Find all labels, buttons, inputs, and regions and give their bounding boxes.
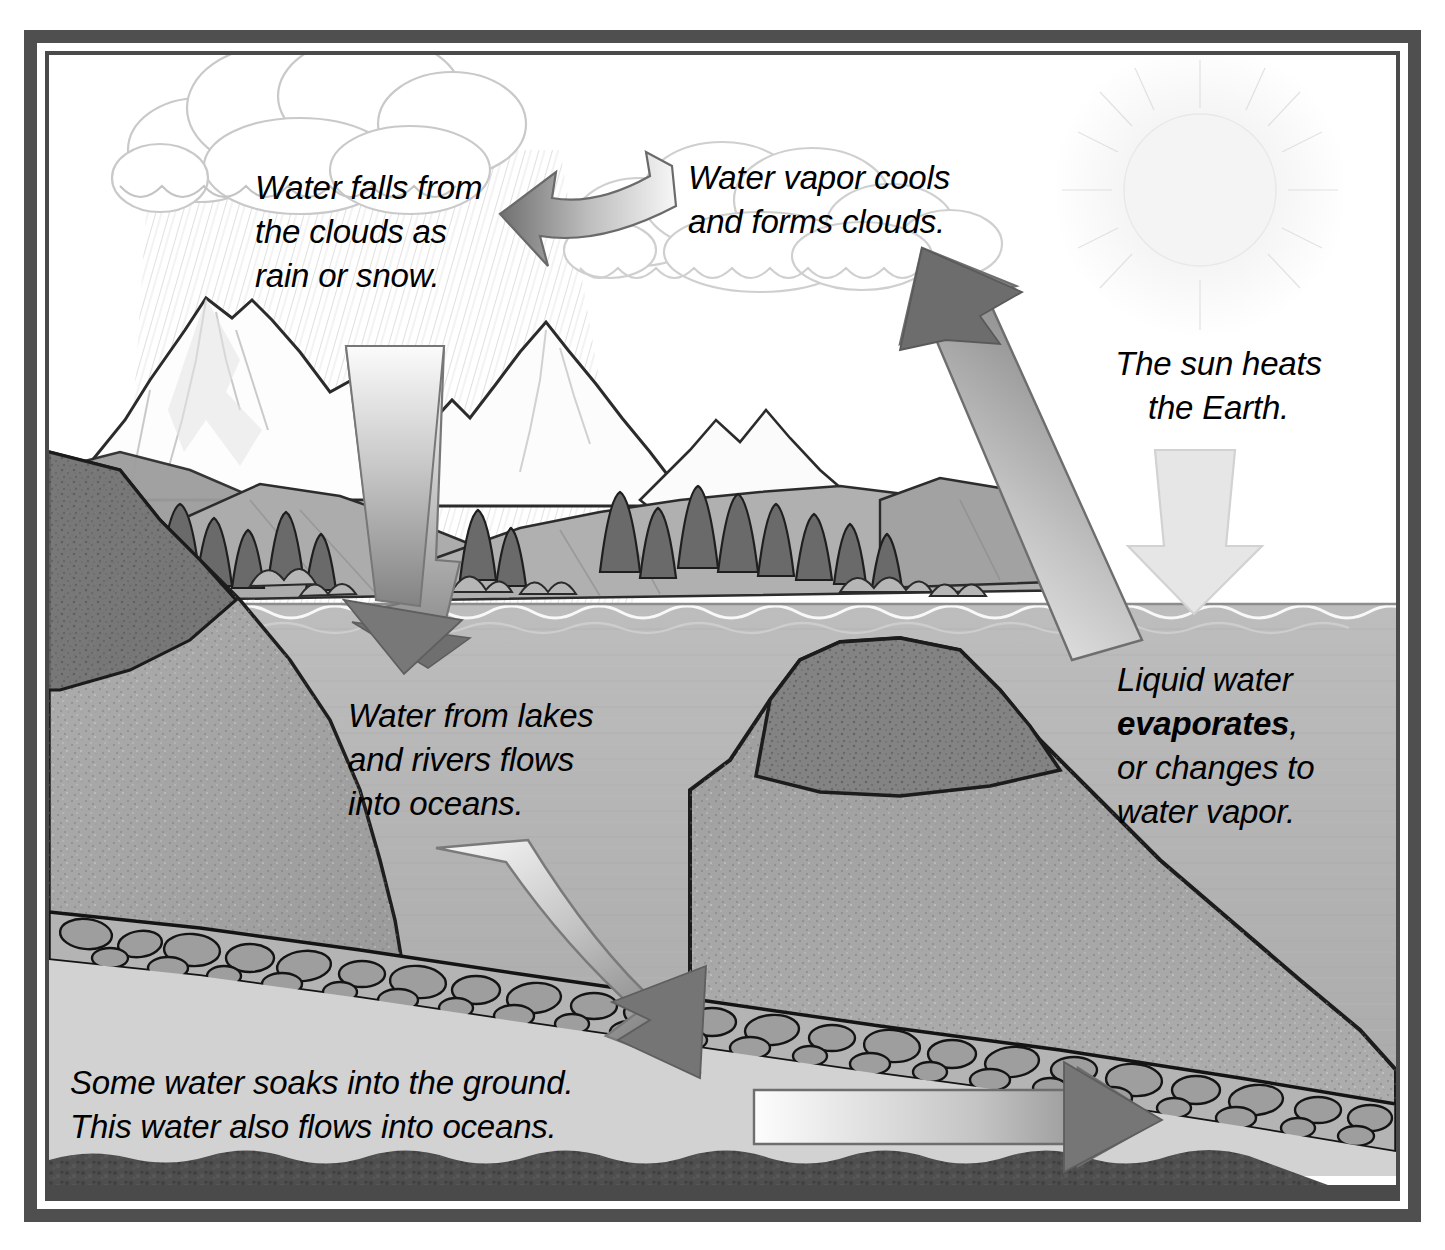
bedrock <box>49 1150 1396 1197</box>
evaporation-label: Liquid waterevaporates,or changes to wat… <box>1117 658 1314 834</box>
evaporation-comma: , <box>1289 705 1298 742</box>
precipitation-label: Water falls from the clouds as rain or s… <box>255 166 482 298</box>
condensation-label: Water vapor cools and forms clouds. <box>688 156 950 244</box>
evaporation-line-1: Liquid water <box>1117 661 1293 698</box>
sun <box>1052 55 1348 338</box>
water-cycle-diagram: Water falls from the clouds as rain or s… <box>0 0 1445 1250</box>
groundwater-label: Some water soaks into the ground. This w… <box>70 1061 573 1149</box>
sun-label: The sun heats the Earth. <box>1106 342 1331 430</box>
evaporation-keyword: evaporates <box>1117 705 1289 742</box>
evaporation-line-3: or changes to water vapor. <box>1117 749 1314 830</box>
runoff-label: Water from lakes and rivers flows into o… <box>348 694 594 826</box>
